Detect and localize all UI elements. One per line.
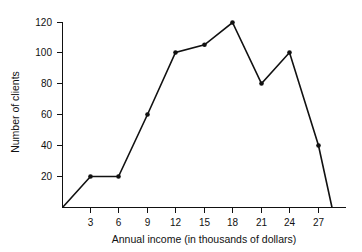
data-point-marker (173, 50, 178, 55)
y-axis-ticks (57, 23, 63, 177)
x-tick-label-18: 18 (227, 217, 239, 228)
x-tick-label-24: 24 (284, 217, 296, 228)
x-tick-label-27: 27 (313, 217, 325, 228)
y-tick-label-100: 100 (35, 47, 52, 58)
y-tick-label-80: 80 (41, 78, 53, 89)
x-tick-label-6: 6 (116, 217, 122, 228)
data-markers-group (88, 20, 321, 179)
data-point-marker (88, 174, 93, 179)
y-tick-label-120: 120 (35, 17, 52, 28)
data-point-marker (145, 112, 150, 117)
data-point-marker (202, 43, 207, 48)
data-point-marker (116, 174, 121, 179)
chart-plot-area: 20 40 60 80 100 120 3 6 9 12 15 18 21 (0, 0, 362, 252)
y-axis-tick-labels: 20 40 60 80 100 120 (35, 17, 52, 182)
data-point-marker (230, 20, 235, 25)
x-tick-label-12: 12 (170, 217, 182, 228)
x-axis-title: Annual income (in thousands of dollars) (112, 233, 296, 245)
x-axis-tick-labels: 3 6 9 12 15 18 21 24 27 (88, 217, 325, 228)
x-tick-label-3: 3 (88, 217, 94, 228)
data-point-marker (316, 143, 321, 148)
data-series-group (63, 23, 333, 208)
x-tick-label-15: 15 (199, 217, 211, 228)
x-tick-label-21: 21 (256, 217, 268, 228)
x-tick-label-9: 9 (145, 217, 151, 228)
y-tick-label-40: 40 (41, 140, 53, 151)
data-point-marker (287, 50, 292, 55)
data-point-marker (259, 81, 264, 86)
y-tick-label-60: 60 (41, 109, 53, 120)
x-axis-ticks (91, 208, 319, 214)
y-axis-title: Number of clients (9, 71, 21, 153)
frequency-polygon-line (63, 23, 333, 208)
frequency-polygon-chart: 20 40 60 80 100 120 3 6 9 12 15 18 21 (0, 0, 362, 252)
axes-group (63, 22, 347, 208)
y-tick-label-20: 20 (41, 171, 53, 182)
